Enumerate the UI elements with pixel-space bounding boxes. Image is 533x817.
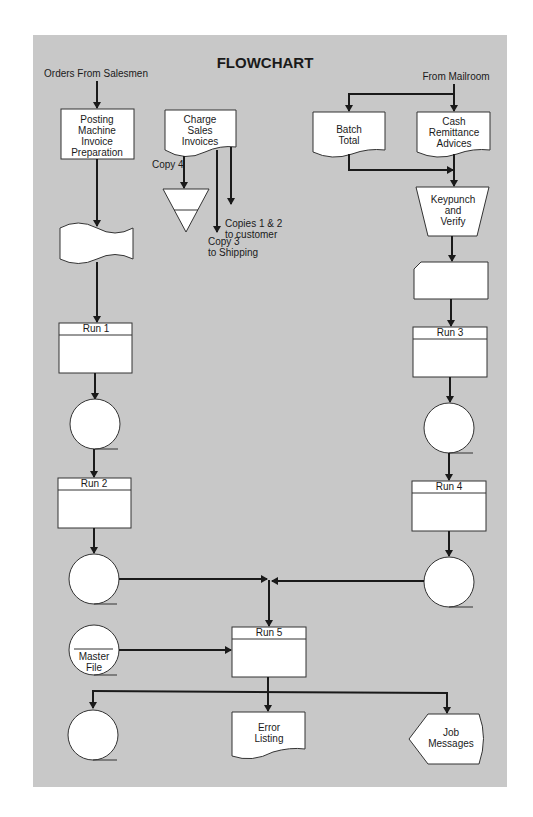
annotation-copies-1-2: Copies 1 & 2 xyxy=(225,218,283,229)
svg-text:Sales: Sales xyxy=(187,125,212,136)
svg-text:Job: Job xyxy=(443,727,460,738)
annotation-copy-3: Copy 3 xyxy=(208,236,240,247)
manual-operation-keypunch-verify: Keypunch and Verify xyxy=(416,187,489,236)
magnetic-tape-2 xyxy=(69,554,119,604)
svg-text:Invoices: Invoices xyxy=(182,136,219,147)
magnetic-tape-4 xyxy=(424,557,474,607)
svg-text:Charge: Charge xyxy=(184,114,217,125)
svg-text:and: and xyxy=(445,205,462,216)
flowchart-diagram: FLOWCHART Orders From Salesmen Posting M… xyxy=(0,0,533,817)
process-run-5: Run 5 xyxy=(232,627,306,677)
svg-text:File: File xyxy=(86,662,103,673)
process-run-3: Run 3 xyxy=(413,327,487,377)
process-run-4: Run 4 xyxy=(412,481,486,531)
svg-text:Cash: Cash xyxy=(442,116,465,127)
svg-text:Listing: Listing xyxy=(255,733,284,744)
svg-text:Preparation: Preparation xyxy=(71,147,123,158)
svg-text:Run 5: Run 5 xyxy=(256,627,283,638)
svg-text:Invoice: Invoice xyxy=(81,136,113,147)
svg-text:Keypunch: Keypunch xyxy=(431,194,475,205)
process-run-2: Run 2 xyxy=(58,478,131,528)
magnetic-tape-3 xyxy=(424,403,474,453)
svg-text:Total: Total xyxy=(338,135,359,146)
punched-card-symbol xyxy=(414,262,488,299)
svg-text:Verify: Verify xyxy=(440,216,465,227)
input-label-orders: Orders From Salesmen xyxy=(44,68,148,79)
magnetic-tape-master-file: Master File xyxy=(69,625,119,675)
annotation-copy-4: Copy 4 xyxy=(152,159,184,170)
svg-text:Machine: Machine xyxy=(78,125,116,136)
magnetic-tape-output xyxy=(68,710,118,760)
svg-text:Run 4: Run 4 xyxy=(436,481,463,492)
svg-text:Error: Error xyxy=(258,722,281,733)
svg-text:Batch: Batch xyxy=(336,124,362,135)
svg-text:Run 1: Run 1 xyxy=(83,323,110,334)
annotation-copy-3-dest: to Shipping xyxy=(208,247,258,258)
svg-text:Remittance: Remittance xyxy=(429,127,480,138)
svg-text:Posting: Posting xyxy=(80,114,113,125)
magnetic-tape-1 xyxy=(70,399,120,449)
process-run-1: Run 1 xyxy=(59,323,132,373)
svg-text:Messages: Messages xyxy=(428,738,474,749)
input-label-mailroom: From Mailroom xyxy=(422,71,489,82)
svg-text:Advices: Advices xyxy=(436,138,471,149)
process-posting-machine: Posting Machine Invoice Preparation xyxy=(61,109,134,159)
svg-text:Master: Master xyxy=(79,651,110,662)
svg-text:Run 2: Run 2 xyxy=(81,478,108,489)
diagram-title: FLOWCHART xyxy=(217,54,314,71)
svg-text:Run 3: Run 3 xyxy=(437,327,464,338)
